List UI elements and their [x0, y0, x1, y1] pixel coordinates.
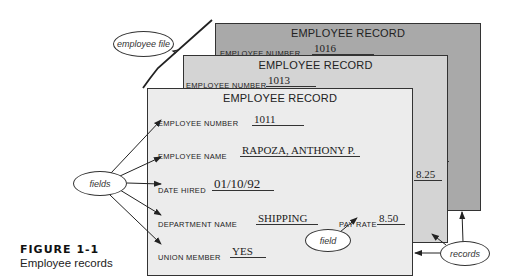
fields-callout: fields: [73, 171, 127, 196]
field-callout: field: [305, 229, 351, 252]
figure-caption: Employee records: [20, 257, 113, 269]
records-callout: records: [440, 241, 490, 266]
employee-file-callout: employee file: [113, 31, 174, 57]
figure-number: FIGURE 1-1: [20, 243, 99, 256]
connector-arrows: [0, 0, 508, 280]
